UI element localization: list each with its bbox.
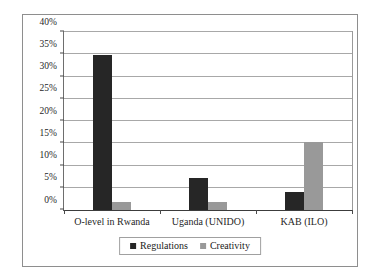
y-axis-tick-mark bbox=[60, 142, 64, 143]
legend-swatch-icon bbox=[200, 243, 206, 249]
y-axis-tick-mark bbox=[60, 164, 64, 165]
legend-label: Creativity bbox=[210, 241, 250, 251]
legend-swatch-icon bbox=[130, 243, 136, 249]
y-axis-tick-mark bbox=[60, 186, 64, 187]
bar-creativity-0 bbox=[112, 202, 131, 210]
y-axis-tick-mark bbox=[60, 31, 64, 32]
y-axis-tick-label: 20% bbox=[40, 107, 57, 117]
x-axis-tick-mark bbox=[256, 210, 257, 214]
y-axis-tick-label: 10% bbox=[40, 151, 57, 161]
y-axis-tick-label: 25% bbox=[40, 85, 57, 95]
y-axis-tick-label: 0% bbox=[44, 196, 57, 206]
plot-area: 0%5%10%15%20%25%30%35%40% O-level in Rwa… bbox=[63, 31, 353, 211]
legend-item-creativity[interactable]: Creativity bbox=[200, 241, 250, 251]
bar-group bbox=[189, 32, 227, 210]
y-axis-tick-label: 15% bbox=[40, 129, 57, 139]
y-axis-tick-mark bbox=[60, 53, 64, 54]
x-axis-category-label: KAB (ILO) bbox=[281, 216, 328, 227]
y-axis-tick-label: 5% bbox=[44, 174, 57, 184]
y-axis-tick-mark bbox=[60, 97, 64, 98]
y-axis-tick-mark bbox=[60, 120, 64, 121]
x-axis-tick-mark bbox=[352, 210, 353, 214]
bar-group bbox=[285, 32, 323, 210]
chart-legend: RegulationsCreativity bbox=[119, 237, 261, 255]
bar-creativity-1 bbox=[208, 202, 227, 210]
x-axis-tick-mark bbox=[160, 210, 161, 214]
y-axis-tick-label: 30% bbox=[40, 62, 57, 72]
y-axis-tick-mark bbox=[60, 75, 64, 76]
legend-label: Regulations bbox=[140, 241, 188, 251]
bar-regulations-0 bbox=[93, 55, 112, 210]
bar-regulations-1 bbox=[189, 178, 208, 210]
bar-regulations-2 bbox=[285, 192, 304, 210]
chart-frame: 0%5%10%15%20%25%30%35%40% O-level in Rwa… bbox=[22, 14, 358, 267]
x-axis-category-label: O-level in Rwanda bbox=[74, 216, 150, 227]
y-axis-tick-label: 40% bbox=[40, 18, 57, 28]
x-axis-category-label: Uganda (UNIDO) bbox=[172, 216, 244, 227]
bar-creativity-2 bbox=[304, 142, 323, 210]
x-axis-tick-mark bbox=[64, 210, 65, 214]
y-axis-tick-label: 35% bbox=[40, 40, 57, 50]
bar-group bbox=[93, 32, 131, 210]
legend-item-regulations[interactable]: Regulations bbox=[130, 241, 188, 251]
